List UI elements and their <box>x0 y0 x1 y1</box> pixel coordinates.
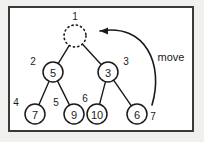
tree-edge <box>58 46 69 63</box>
tree-edge <box>83 44 101 64</box>
tree-node-index-label: 7 <box>150 112 156 122</box>
tree-node-index-label: 5 <box>53 98 59 108</box>
tree-edge <box>114 81 131 106</box>
tree-node-index-label: 4 <box>13 98 19 108</box>
tree-edge <box>100 82 106 104</box>
tree-node-value: 6 <box>134 109 140 120</box>
move-arrow-head <box>100 28 108 35</box>
tree-node-index-label: 1 <box>72 12 78 22</box>
tree-node-index-label: 3 <box>123 57 129 67</box>
tree-node-circle[interactable] <box>64 25 86 47</box>
tree-diagram-canvas <box>0 0 204 142</box>
tree-node-value: 7 <box>32 109 38 120</box>
tree-nodes-group <box>25 25 147 124</box>
tree-edge <box>58 81 70 104</box>
figure-root: 15233749510667 move <box>0 0 204 142</box>
move-annotation-label: move <box>158 52 185 63</box>
tree-node-value: 3 <box>105 67 111 78</box>
tree-node-value: 10 <box>91 109 103 120</box>
tree-edge <box>39 82 49 105</box>
tree-node-index-label: 6 <box>82 94 88 104</box>
tree-node-index-label: 2 <box>30 57 36 67</box>
tree-node-value: 5 <box>50 67 56 78</box>
tree-node-value: 9 <box>71 109 77 120</box>
